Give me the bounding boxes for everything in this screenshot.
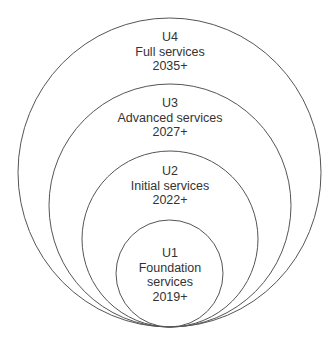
u1-level-label: U1 [162, 246, 178, 260]
u4-level-label: U4 [162, 30, 178, 44]
u3-year-label: 2027+ [152, 125, 187, 139]
u2-level-label: U2 [162, 164, 178, 178]
u2-name-label: Initial services [131, 179, 210, 193]
u2-year-label: 2022+ [152, 193, 187, 207]
u4-year-label: 2035+ [152, 59, 187, 73]
u4-name-label: Full services [135, 45, 204, 59]
u1-name-line2-label: services [147, 275, 193, 289]
u3-name-label: Advanced services [118, 111, 223, 125]
u1-name-line1-label: Foundation [139, 261, 202, 275]
nested-circles-diagram: U4 Full services 2035+ U3 Advanced servi… [0, 0, 335, 343]
u1-year-label: 2019+ [152, 290, 187, 304]
u3-level-label: U3 [162, 96, 178, 110]
circle-u1: U1 Foundation services 2019+ [116, 220, 223, 327]
